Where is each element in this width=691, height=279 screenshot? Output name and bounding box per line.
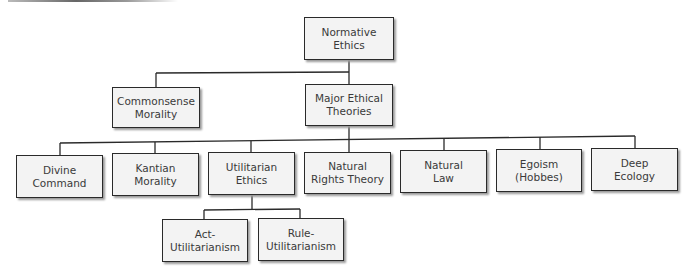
node-rule-utilitarianism: Rule- Utilitarianism bbox=[258, 218, 344, 261]
node-label: Act- Utilitarianism bbox=[170, 228, 240, 254]
node-natural-law: Natural Law bbox=[400, 150, 487, 193]
node-kantian-morality: Kantian Morality bbox=[112, 153, 199, 196]
node-label: Normative Ethics bbox=[322, 26, 377, 52]
node-normative-ethics: Normative Ethics bbox=[304, 17, 394, 60]
node-label: Deep Ecology bbox=[614, 157, 655, 183]
node-label: Major Ethical Theories bbox=[315, 92, 383, 118]
node-natural-rights-theory: Natural Rights Theory bbox=[304, 152, 391, 194]
node-label: Rule- Utilitarianism bbox=[266, 227, 336, 253]
node-label: Egoism (Hobbes) bbox=[515, 158, 563, 184]
node-label: Divine Command bbox=[33, 164, 87, 190]
node-utilitarian-ethics: Utilitarian Ethics bbox=[208, 152, 295, 195]
node-commonsense-morality: Commonsense Morality bbox=[112, 87, 200, 128]
node-label: Kantian Morality bbox=[134, 162, 176, 188]
node-deep-ecology: Deep Ecology bbox=[591, 148, 678, 191]
node-label: Commonsense Morality bbox=[117, 95, 195, 121]
node-egoism-hobbes: Egoism (Hobbes) bbox=[496, 149, 582, 192]
node-act-utilitarianism: Act- Utilitarianism bbox=[162, 219, 248, 262]
node-divine-command: Divine Command bbox=[16, 155, 103, 198]
node-label: Utilitarian Ethics bbox=[226, 161, 277, 187]
node-label: Natural Rights Theory bbox=[311, 160, 384, 186]
node-label: Natural Law bbox=[424, 159, 463, 185]
node-major-ethical-theories: Major Ethical Theories bbox=[305, 84, 393, 126]
